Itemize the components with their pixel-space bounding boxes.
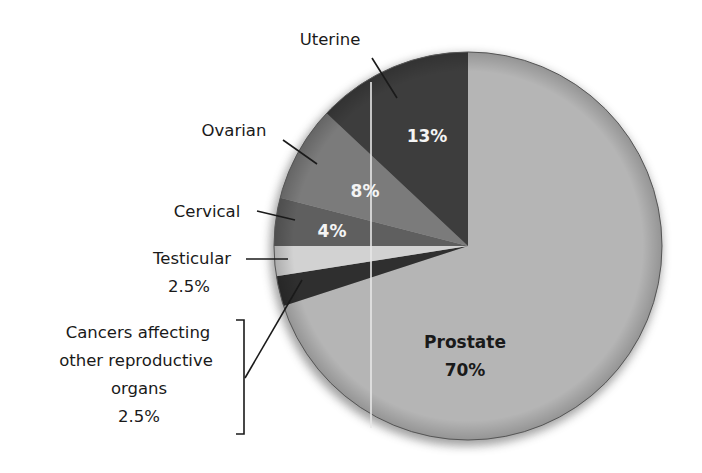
pie-chart: Uterine Ovarian Cervical Testicular 2.5%…	[0, 0, 702, 473]
label-uterine: Uterine	[300, 30, 361, 49]
label-other-line2: other reproductive	[59, 351, 213, 370]
label-testicular-pct: 2.5%	[168, 277, 210, 296]
pct-prostate: 70%	[445, 360, 486, 380]
pie-edge-shade	[274, 52, 662, 440]
label-prostate: Prostate	[424, 332, 506, 352]
label-testicular: Testicular	[152, 249, 231, 268]
pct-cervical: 4%	[318, 221, 347, 241]
label-cervical: Cervical	[174, 202, 241, 221]
pct-ovarian: 8%	[351, 181, 380, 201]
pct-uterine: 13%	[407, 126, 448, 146]
label-other-line1: Cancers affecting	[66, 323, 211, 342]
label-ovarian: Ovarian	[202, 121, 267, 140]
label-other-pct: 2.5%	[118, 407, 160, 426]
bracket-other	[236, 320, 244, 434]
label-other-line3: organs	[111, 379, 167, 398]
